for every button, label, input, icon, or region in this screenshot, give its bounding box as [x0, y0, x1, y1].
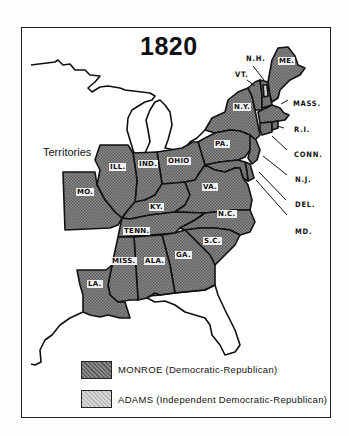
- callout-line-conn: [272, 136, 287, 150]
- label-mo: MO.: [76, 188, 94, 196]
- label-del: DEL.: [295, 200, 315, 209]
- callout-line-mass: [281, 100, 288, 104]
- label-ind: IND.: [138, 160, 158, 168]
- callout-line-nh: [253, 66, 264, 80]
- state-me: [268, 47, 305, 102]
- label-ill: ILL.: [109, 163, 126, 171]
- map-title: 1820: [140, 32, 198, 61]
- state-ri: [272, 121, 278, 130]
- label-nj: N.J.: [295, 175, 311, 184]
- legend-swatch-adams: [81, 390, 112, 408]
- callout-line-nj: [263, 156, 287, 175]
- label-nh: N.H.: [246, 54, 266, 63]
- legend-label-monroe: MONROE (Democratic-Republican): [118, 364, 277, 375]
- gulf-coastline: [31, 312, 83, 365]
- label-pa: PA.: [214, 140, 230, 148]
- state-miss: [108, 237, 138, 302]
- label-ohio: OHIO: [167, 157, 191, 165]
- great-lakes-shoreline: [31, 60, 155, 155]
- territories-label: Territories: [43, 146, 91, 158]
- label-va: VA.: [202, 183, 218, 191]
- label-sc: S.C.: [203, 237, 222, 245]
- label-miss: MISS.: [111, 257, 137, 265]
- label-conn: CONN.: [294, 150, 323, 159]
- label-la: LA.: [87, 280, 103, 288]
- label-vt: VT.: [235, 70, 249, 79]
- label-ri: R.I.: [294, 125, 310, 134]
- state-nh-adams-strip: [263, 85, 268, 97]
- label-tenn: TENN.: [123, 227, 150, 235]
- label-mass: MASS.: [293, 99, 321, 108]
- florida-territory: [147, 285, 240, 355]
- label-nc: N.C.: [217, 210, 237, 218]
- state-nj: [248, 135, 260, 164]
- label-ga: GA.: [175, 251, 192, 259]
- label-ny: N.Y.: [233, 103, 251, 111]
- label-ky: KY.: [149, 203, 164, 211]
- label-me: ME.: [278, 57, 295, 65]
- label-ala: ALA.: [144, 257, 165, 265]
- state-conn: [260, 122, 272, 135]
- legend-swatch-monroe: [81, 361, 112, 379]
- legend-label-adams: ADAMS (Independent Democratic-Republican…: [118, 394, 327, 405]
- callout-line-del: [259, 172, 286, 200]
- label-md: MD.: [295, 227, 312, 236]
